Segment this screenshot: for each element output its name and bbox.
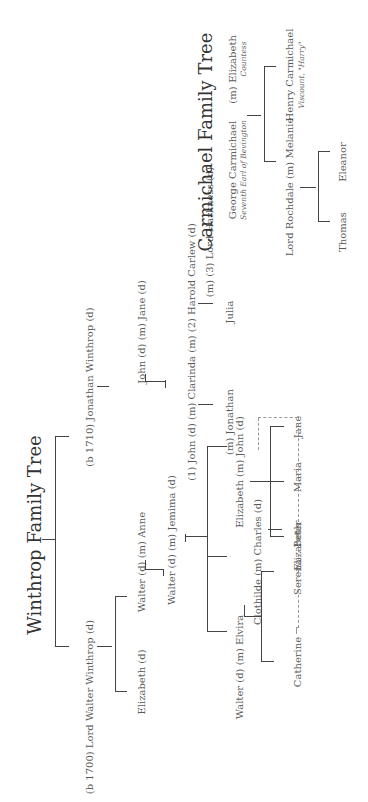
- connector: [55, 436, 69, 437]
- walter-jemima: Walter (d) (m) Jemima (d): [166, 475, 178, 605]
- marriage-link: [258, 418, 259, 450]
- connector: [244, 616, 261, 617]
- jonathan: (m) Jonathan: [224, 389, 236, 455]
- connector: [198, 303, 213, 304]
- connector: [264, 67, 265, 162]
- connector: [145, 381, 165, 382]
- connector: [97, 386, 109, 387]
- lord-walter-winthrop: (b 1700) Lord Walter Winthrop (d): [84, 620, 96, 794]
- connector: [198, 404, 213, 405]
- connector: [145, 569, 163, 570]
- connector: [185, 536, 207, 537]
- connector: [318, 152, 319, 222]
- connector: [270, 536, 284, 537]
- family-tree-diagram: Winthrop Family Tree (b 1700) Lord Walte…: [0, 0, 368, 802]
- connector: [165, 380, 166, 388]
- thomas: Thomas: [337, 212, 349, 252]
- connector: [207, 631, 227, 632]
- clothilde-charles: Clothilde (m) Charles (d): [252, 499, 264, 625]
- elizabeth-d: Elizabeth (d): [136, 649, 148, 714]
- connector: [115, 597, 116, 692]
- connector: [247, 115, 261, 116]
- henry-title: Viscount, "Harry": [296, 41, 308, 108]
- connector: [163, 569, 164, 576]
- connector: [261, 661, 274, 662]
- rochdale-melanie: Lord Rochdale (m) Melanie: [284, 118, 296, 257]
- catherine: Catherine: [292, 637, 304, 687]
- marriage-link: [258, 417, 298, 418]
- connector: [270, 426, 284, 427]
- elizabeth-title: Countess: [238, 41, 250, 76]
- connector: [270, 427, 271, 537]
- connector: [270, 481, 284, 482]
- henry-carmichael: Henry Carmichael: [284, 29, 296, 122]
- connector: [261, 572, 262, 662]
- connector: [97, 646, 112, 647]
- john-jane: John (d) (m) Jane (d): [136, 280, 148, 384]
- marriage-m: (m): [227, 86, 239, 103]
- walter-elvira: Walter (d) (m) Elvira: [234, 615, 246, 719]
- winthrop-root-bar: [55, 436, 56, 647]
- winthrop-root-stem: [42, 539, 55, 540]
- connector: [115, 691, 127, 692]
- eleanor: Eleanor: [337, 142, 349, 182]
- jonathan-winthrop: (b 1710) Jonathan Winthrop (d): [84, 307, 96, 466]
- connector: [250, 481, 270, 482]
- connector: [264, 66, 276, 67]
- connector: [318, 221, 330, 222]
- winthrop-title: Winthrop Family Tree: [25, 435, 45, 634]
- julia: Julia: [224, 301, 236, 324]
- connector: [264, 161, 276, 162]
- marriage-link: [298, 418, 299, 628]
- connector: [261, 571, 274, 572]
- walter-anne: Walter (d) (m) Anne: [136, 512, 148, 612]
- john-clarinda: (1) John (d) (m) Clarinda (m) (2) Harold…: [186, 223, 198, 481]
- carmichael-title: Carmichael Family Tree: [196, 33, 216, 252]
- connector: [207, 447, 208, 632]
- connector: [207, 556, 227, 557]
- connector: [115, 596, 127, 597]
- connector: [300, 187, 316, 188]
- marriage-link: [296, 628, 297, 634]
- george-title: Seventh Earl of Bevington: [238, 120, 250, 220]
- connector: [55, 646, 69, 647]
- connector: [318, 151, 330, 152]
